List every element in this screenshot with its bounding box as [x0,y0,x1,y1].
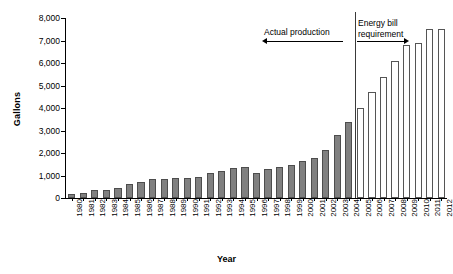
bar-1989 [172,178,179,198]
x-tick-mark [153,198,154,201]
x-axis-title: Year [0,254,453,264]
x-tick-label: 1995 [248,199,257,217]
x-tick-mark [95,198,96,201]
y-tick-mark [61,63,66,64]
x-tick-mark [372,198,373,201]
bar-2007 [380,77,387,199]
x-tick-mark [430,198,431,201]
x-tick-label: 2004 [352,199,361,217]
x-tick-label: 1980 [75,199,84,217]
bar-1993 [218,171,225,198]
x-tick-mark [130,198,131,201]
x-tick-mark [314,198,315,201]
x-tick-label: 1993 [225,199,234,217]
y-tick-label: 2,000 [20,148,60,158]
x-tick-mark [83,198,84,201]
x-tick-label: 2007 [387,199,396,217]
x-tick-label: 2006 [375,199,384,217]
x-tick-mark [441,198,442,201]
y-tick-mark [61,176,66,177]
x-tick-label: 2009 [410,199,419,217]
y-tick-label: 1,000 [20,171,60,181]
y-axis-tick-labels: 01,0002,0003,0004,0005,0006,0007,0008,00… [20,0,60,274]
x-tick-label: 1997 [272,199,281,217]
y-tick-label: 5,000 [20,81,60,91]
bar-2009 [403,45,410,198]
bar-2000 [299,161,306,198]
x-tick-label: 1996 [260,199,269,217]
x-tick-label: 1991 [202,199,211,217]
x-tick-mark [222,198,223,201]
x-tick-label: 1985 [133,199,142,217]
x-tick-mark [395,198,396,201]
x-tick-label: 1982 [98,199,107,217]
x-tick-label: 1989 [179,199,188,217]
x-tick-mark [141,198,142,201]
x-tick-label: 2003 [341,199,350,217]
y-tick-mark [61,86,66,87]
x-tick-mark [72,198,73,201]
plot-area [66,18,447,198]
y-tick-mark [61,198,66,199]
x-tick-mark [337,198,338,201]
bar-1985 [126,184,133,198]
x-tick-mark [118,198,119,201]
bar-2005 [357,108,364,198]
x-tick-label: 2005 [364,199,373,217]
x-tick-mark [164,198,165,201]
bar-2006 [368,92,375,198]
x-tick-label: 1981 [87,199,96,217]
x-tick-label: 2000 [306,199,315,217]
annotation-actual-arrow-line [265,41,343,42]
x-tick-mark [187,198,188,201]
y-tick-label: 6,000 [20,58,60,68]
bar-1988 [161,179,168,198]
x-tick-mark [291,198,292,201]
x-tick-mark [268,198,269,201]
y-tick-mark [61,41,66,42]
x-tick-mark [280,198,281,201]
bar-1998 [276,167,283,199]
x-tick-mark [384,198,385,201]
bar-1994 [230,168,237,198]
bar-1987 [149,179,156,198]
y-tick-mark [61,18,66,19]
y-tick-label: 4,000 [20,103,60,113]
bar-2003 [334,135,341,198]
x-tick-mark [407,198,408,201]
y-tick-mark [61,108,66,109]
actual-vs-projected-divider [355,12,356,198]
x-tick-label: 1999 [295,199,304,217]
x-tick-label: 1983 [110,199,119,217]
bar-2012 [438,29,445,198]
arrow-left-icon [262,38,267,44]
x-tick-label: 2011 [433,199,442,216]
y-tick-mark [61,131,66,132]
bar-1991 [195,177,202,198]
y-tick-label: 0 [20,193,60,203]
bar-chart: Gallons 01,0002,0003,0004,0005,0006,0007… [0,0,453,274]
x-tick-mark [106,198,107,201]
y-tick-label: 8,000 [20,13,60,23]
bar-2011 [426,29,433,198]
y-tick-mark [61,153,66,154]
annotation-actual-production: Actual production [264,27,330,38]
bar-1986 [137,182,144,198]
x-tick-label: 1987 [156,199,165,217]
x-tick-label: 2012 [445,199,453,217]
x-tick-label: 1994 [237,199,246,217]
bar-2004 [345,122,352,199]
bar-1982 [91,190,98,198]
bar-2002 [322,150,329,198]
x-axis-tick-labels: 1980198119821983198419851986198719881989… [66,199,447,249]
bar-1984 [114,188,121,198]
annotation-energy-arrow-line [357,41,405,42]
x-tick-label: 1990 [191,199,200,217]
x-tick-label: 2002 [329,199,338,217]
x-tick-label: 1992 [214,199,223,217]
x-tick-mark [326,198,327,201]
x-tick-label: 1984 [121,199,130,217]
x-tick-mark [303,198,304,201]
bar-1983 [103,190,110,198]
x-tick-mark [210,198,211,201]
